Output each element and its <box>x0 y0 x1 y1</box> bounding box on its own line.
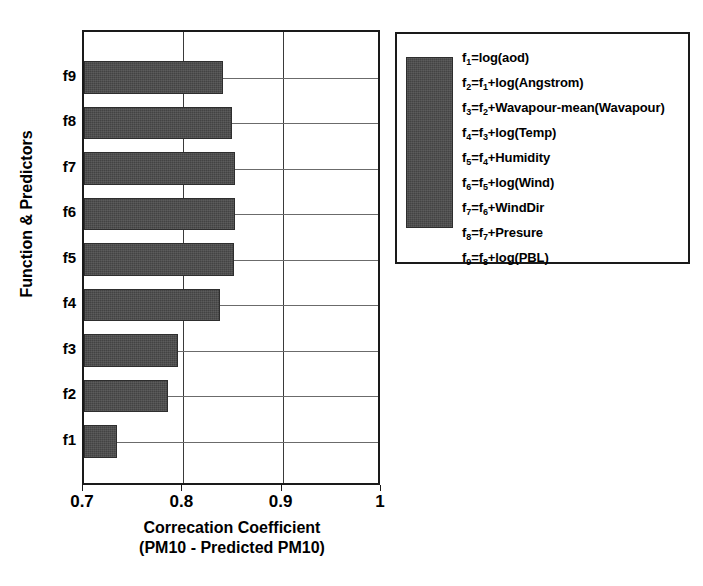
x-tick-label-1: 1 <box>375 492 384 512</box>
bar-f2 <box>84 380 168 413</box>
legend-entry-1: f1=log(aod) <box>462 46 684 71</box>
legend-entry-7: f7=f6+WindDir <box>462 196 684 221</box>
y-tick-label-f5: f5 <box>42 250 76 265</box>
x-tick-mark <box>380 485 381 491</box>
gridline-vertical <box>283 32 284 483</box>
x-tick-label-0.8: 0.8 <box>170 492 194 512</box>
legend-entry-8: f8=f7+Presure <box>462 221 684 246</box>
legend-entry-4: f4=f3+log(Temp) <box>462 121 684 146</box>
legend-entry-9: f9=f8+log(PBL) <box>462 246 684 271</box>
x-tick-mark <box>181 485 182 491</box>
y-tick-label-f3: f3 <box>42 341 76 356</box>
bar-f9 <box>84 61 223 94</box>
x-tick-mark <box>281 485 282 491</box>
legend-entry-6: f6=f5+log(Wind) <box>462 171 684 196</box>
y-axis-title: Function & Predictors <box>18 99 36 329</box>
bar-f5 <box>84 243 234 276</box>
y-tick-label-f2: f2 <box>42 386 76 401</box>
plot-area <box>82 30 380 485</box>
x-tick-label-0.7: 0.7 <box>70 492 94 512</box>
x-tick-label-0.9: 0.9 <box>269 492 293 512</box>
y-tick-label-f4: f4 <box>42 295 76 310</box>
y-tick-label-f7: f7 <box>42 159 76 174</box>
bar-f1 <box>84 425 117 458</box>
legend-box: f1=log(aod)f2=f1+log(Angstrom)f3=f2+Wava… <box>395 32 690 264</box>
bar-f8 <box>84 107 232 140</box>
x-axis-title-line2: (PM10 - Predicted PM10) <box>72 538 392 558</box>
y-tick-label-f9: f9 <box>42 68 76 83</box>
gridline-horizontal <box>84 442 378 443</box>
x-tick-mark <box>82 485 83 491</box>
y-axis-tick-labels: f1f2f3f4f5f6f7f8f9 <box>38 30 76 485</box>
legend-entry-list: f1=log(aod)f2=f1+log(Angstrom)f3=f2+Wava… <box>462 46 684 271</box>
bar-f7 <box>84 152 235 185</box>
x-axis-title-line1: Correcation Coefficient <box>72 518 392 538</box>
bar-f4 <box>84 289 220 322</box>
bar-chart-figure: Function & Predictors f1f2f3f4f5f6f7f8f9… <box>0 0 703 586</box>
y-tick-label-f8: f8 <box>42 113 76 128</box>
legend-entry-2: f2=f1+log(Angstrom) <box>462 71 684 96</box>
legend-entry-5: f5=f4+Humidity <box>462 146 684 171</box>
legend-color-swatch <box>406 57 453 228</box>
bar-f3 <box>84 334 178 367</box>
x-axis-title: Correcation Coefficient (PM10 - Predicte… <box>72 518 392 558</box>
bar-f6 <box>84 198 235 231</box>
legend-entry-3: f3=f2+Wavapour-mean(Wavapour) <box>462 96 684 121</box>
y-tick-label-f6: f6 <box>42 204 76 219</box>
x-axis-tick-labels: 0.70.80.91 <box>0 492 703 516</box>
y-tick-label-f1: f1 <box>42 432 76 447</box>
